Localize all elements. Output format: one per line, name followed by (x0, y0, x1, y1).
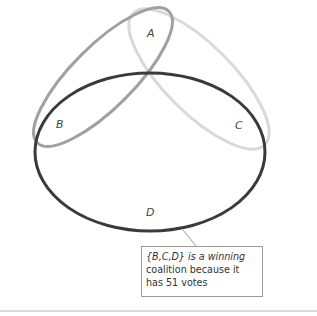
callout-line-3: has 51 votes (146, 276, 258, 289)
ellipse-a-c (109, 0, 289, 169)
callout-line-1: {B,C,D} is a winning (146, 250, 258, 263)
callout-box: {B,C,D} is a winning coalition because i… (141, 246, 263, 297)
label-c: C (235, 119, 243, 132)
label-b: B (56, 118, 64, 131)
callout-leader (183, 230, 196, 246)
label-d: D (146, 206, 154, 219)
callout-line-2: coalition because it (146, 263, 258, 276)
label-a: A (146, 27, 155, 40)
ellipse-a-b (15, 0, 190, 165)
bottom-divider (0, 310, 317, 312)
